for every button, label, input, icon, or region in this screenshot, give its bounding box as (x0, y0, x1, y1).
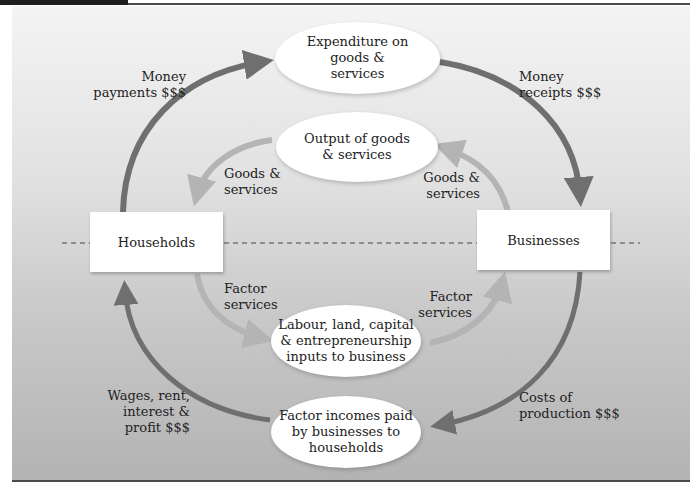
incomes-label: Factor incomes paid by businesses to hou… (279, 408, 413, 456)
output-label: Output of goods & services (304, 131, 410, 163)
costs-of-production-label: Costs of production $$$ (519, 390, 629, 422)
goods-from-businesses-label: Goods & services (410, 170, 480, 202)
households-label: Households (118, 235, 195, 250)
wages-rent-label: Wages, rent, interest & profit $$$ (90, 388, 190, 436)
factor-services-households-label: Factor services (224, 281, 294, 313)
households-box: Households (90, 212, 223, 272)
expenditure-label: Expenditure on goods & services (307, 34, 409, 82)
incomes-oval: Factor incomes paid by businesses to hou… (271, 396, 421, 468)
money-payments-label: Money payments $$$ (80, 69, 186, 101)
businesses-box: Businesses (477, 210, 610, 270)
goods-to-households-label: Goods & services (224, 166, 294, 198)
inputs-oval: Labour, land, capital & entrepreneurship… (271, 305, 421, 377)
factor-services-businesses-label: Factor services (402, 289, 472, 321)
inputs-label: Labour, land, capital & entrepreneurship… (278, 317, 413, 365)
money-receipts-label: Money receipts $$$ (519, 69, 629, 101)
expenditure-oval: Expenditure on goods & services (275, 22, 440, 94)
businesses-label: Businesses (507, 233, 580, 248)
